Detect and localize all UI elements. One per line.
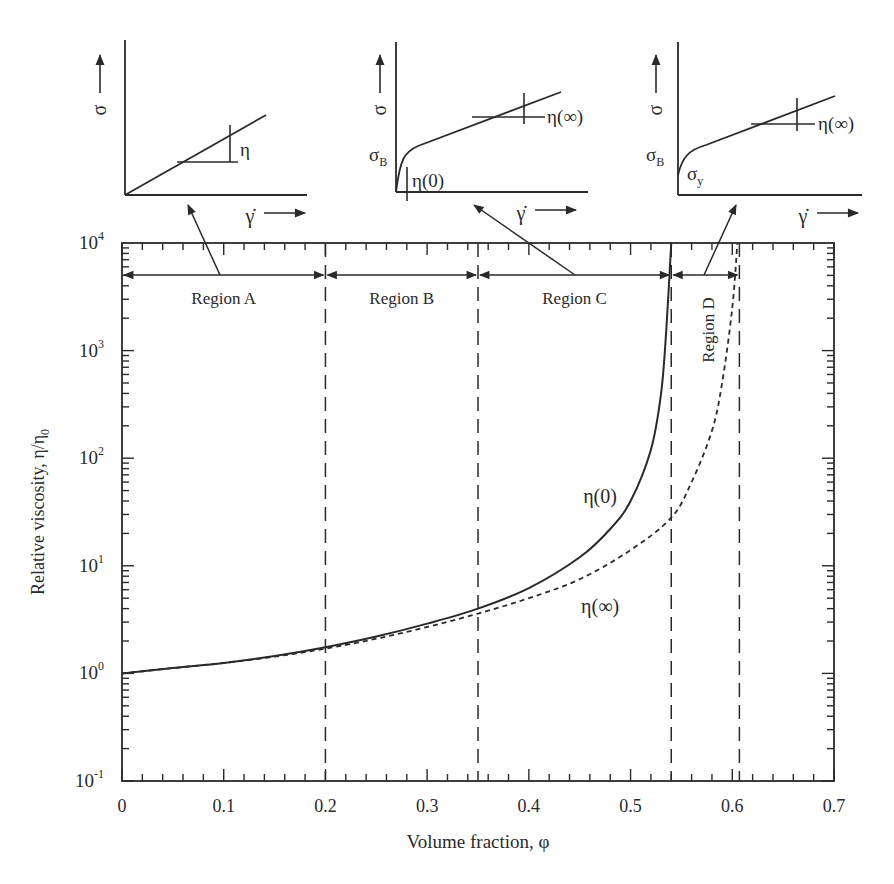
inset-x-label: γ̇: [798, 205, 810, 228]
viscosity-figure: σγ̇ησγ̇η(∞)η(0)σBσγ̇η(∞)σBσy Region AReg…: [0, 0, 894, 884]
y-tick-label: 103: [79, 337, 104, 361]
inset-annotation: η(∞): [818, 113, 854, 135]
inset-y-label: σ: [88, 104, 110, 115]
region-label: Region A: [191, 289, 256, 308]
inset-annotation: η(0): [412, 170, 444, 192]
x-tick-label: 0.2: [314, 796, 337, 816]
y-tick-label: 100: [79, 659, 104, 683]
inset-annotation: σB: [369, 144, 387, 169]
region-arrows: Region ARegion BRegion CRegion D: [124, 275, 737, 363]
x-tick-label: 0.1: [212, 796, 235, 816]
region-label: Region B: [369, 289, 434, 308]
series-annotation: η(0): [583, 485, 617, 508]
inset-annotation: σB: [646, 144, 664, 169]
series-annotation: η(∞): [581, 595, 619, 618]
x-tick-label: 0.4: [518, 796, 541, 816]
x-tick-label: 0: [118, 796, 127, 816]
y-tick-label: 101: [79, 552, 104, 576]
x-tick-label: 0.7: [823, 796, 846, 816]
y-tick-label: 10-1: [75, 767, 104, 791]
region-label: Region C: [542, 289, 607, 308]
inset-pointer-arrow: [188, 205, 220, 275]
inset-newtonian: σγ̇η: [88, 40, 307, 228]
x-tick-label: 0.6: [721, 796, 744, 816]
inset-annotation: η: [240, 139, 250, 160]
x-tick-label: 0.5: [619, 796, 642, 816]
inset-x-label: γ̇: [245, 205, 257, 228]
y-tick-labels: 10410310210110010-1: [75, 229, 104, 791]
x-axis-label: Volume fraction, φ: [406, 831, 549, 852]
main-plot: Region ARegion BRegion CRegion D 00.10.2…: [28, 205, 845, 852]
inset-yield-stress: σγ̇η(∞)σBσy: [644, 42, 862, 228]
x-tick-labels: 00.10.20.30.40.50.60.7: [118, 796, 846, 816]
inset-y-label: σ: [644, 104, 666, 115]
region-label: Region D: [699, 297, 718, 363]
insets: σγ̇ησγ̇η(∞)η(0)σBσγ̇η(∞)σBσy: [88, 40, 862, 228]
inset-y-label: σ: [368, 104, 390, 115]
y-axis-label: Relative viscosity, η/η0: [28, 429, 52, 595]
inset-bingham-shear-thinning: σγ̇η(∞)η(0)σB: [368, 42, 588, 225]
inset-pointer-arrows: [188, 205, 736, 275]
inset-x-label: γ̇: [516, 202, 528, 225]
inset-pointer-arrow: [704, 205, 736, 275]
region-boundaries: [325, 243, 739, 781]
x-tick-label: 0.3: [416, 796, 439, 816]
inset-annotation: σy: [687, 163, 703, 188]
y-tick-label: 104: [79, 229, 104, 253]
y-tick-label: 102: [79, 444, 104, 468]
inset-annotation: η(∞): [547, 106, 583, 128]
